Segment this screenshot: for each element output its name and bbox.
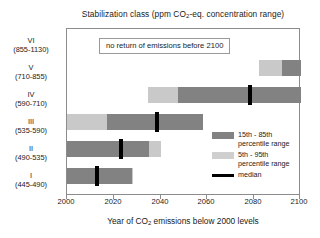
ytick-roman-iv: IV xyxy=(0,90,62,99)
ytick-roman-i: I xyxy=(0,171,62,180)
chart-legend: 15th - 85th percentile range 5th - 95th … xyxy=(212,131,298,183)
chart-title-after: -eq. concentration range) xyxy=(189,9,284,19)
legend-swatch-median-icon xyxy=(212,174,234,177)
bar-iv-p15-p85 xyxy=(178,87,301,103)
xaxis-label-before: Year of CO xyxy=(107,216,148,226)
ytick-label-i: I (445-490) xyxy=(0,171,62,189)
bar-iv-median xyxy=(248,85,252,105)
bar-v-p15-p85 xyxy=(282,60,301,76)
xaxis-label-after: emissions below 2000 levels xyxy=(151,216,258,226)
xtick-label-2060: 2060 xyxy=(189,197,223,206)
bar-ii-median xyxy=(119,139,123,159)
xtick-label-2100: 2100 xyxy=(282,197,316,206)
legend-swatch-dark-icon xyxy=(212,132,234,139)
ytick-label-iv: IV (590-710) xyxy=(0,90,62,108)
xtick-label-2040: 2040 xyxy=(143,197,177,206)
ytick-roman-iii: III xyxy=(0,117,62,126)
ytick-label-iii: III (535-590) xyxy=(0,117,62,135)
ytick-label-vi: VI (855-1130) xyxy=(0,36,62,54)
ytick-range-vi: (855-1130) xyxy=(0,45,62,54)
ytick-range-ii: (490-535) xyxy=(0,153,62,162)
bar-ii-p15-p85 xyxy=(67,141,149,157)
ytick-label-ii: II (490-535) xyxy=(0,144,62,162)
annotation-no-return: no return of emissions before 2100 xyxy=(99,38,230,54)
legend-label-median: median xyxy=(238,171,298,180)
legend-entry-5-95: 5th - 95th percentile range xyxy=(212,151,298,168)
chart-title: Stabilization class (ppm CO2-eq. concent… xyxy=(66,9,300,21)
bar-i-p15-p85 xyxy=(67,168,132,184)
legend-swatch-light-icon xyxy=(212,152,234,159)
ytick-range-iv: (590-710) xyxy=(0,99,62,108)
xaxis-label: Year of CO2 emissions below 2000 levels xyxy=(66,216,300,229)
xtick-label-2000: 2000 xyxy=(49,197,83,206)
ytick-roman-vi: VI xyxy=(0,36,62,45)
xtick-label-2020: 2020 xyxy=(96,197,130,206)
ytick-roman-ii: II xyxy=(0,144,62,153)
ytick-label-v: V (710-855) xyxy=(0,63,62,81)
legend-label-5-95-line2: percentile range xyxy=(238,160,298,169)
ytick-range-iii: (535-590) xyxy=(0,126,62,135)
legend-entry-15-85: 15th - 85th percentile range xyxy=(212,131,298,148)
xtick-label-2080: 2080 xyxy=(236,197,270,206)
ytick-roman-v: V xyxy=(0,63,62,72)
chart-title-before: Stabilization class (ppm CO xyxy=(82,9,186,19)
bar-i-median xyxy=(95,166,99,186)
bar-iii-median xyxy=(155,112,159,132)
chart-figure: Stabilization class (ppm CO2-eq. concent… xyxy=(0,0,320,238)
ytick-range-v: (710-855) xyxy=(0,72,62,81)
legend-label-15-85-line2: percentile range xyxy=(238,140,298,149)
legend-entry-median: median xyxy=(212,171,298,180)
ytick-range-i: (445-490) xyxy=(0,180,62,189)
